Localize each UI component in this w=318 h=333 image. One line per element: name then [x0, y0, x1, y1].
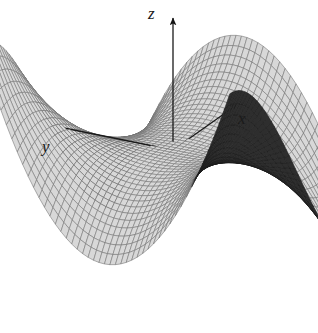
surface-plot-canvas — [0, 0, 318, 333]
surface-plot-figure: z x y — [0, 0, 318, 333]
axis-label-y: y — [42, 138, 50, 155]
axis-label-x: x — [238, 110, 246, 127]
axis-label-z: z — [148, 5, 155, 22]
